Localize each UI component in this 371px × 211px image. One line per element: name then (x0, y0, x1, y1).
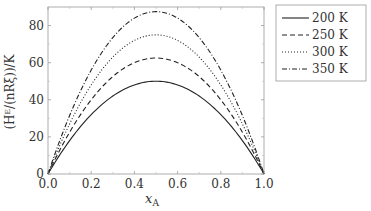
legend: 200 K250 K300 K350 K (276, 5, 366, 81)
y-tick-label: 40 (29, 93, 44, 107)
x-axis-label: xA (145, 191, 159, 208)
x-tick-label: 0.6 (168, 177, 187, 191)
x-tick-label: 0.4 (125, 177, 144, 191)
series-line (48, 35, 264, 174)
x-tick-label: 1.0 (254, 177, 273, 191)
y-axis-label: (Hᴱ/(nRξ))/K (3, 53, 17, 129)
legend-label: 300 K (312, 45, 349, 59)
x-axis-ticks: 0.00.20.40.60.81.0 (38, 7, 273, 191)
data-series (48, 12, 264, 174)
y-axis-ticks: 020406080 (29, 19, 264, 181)
y-tick-label: 0 (36, 167, 44, 181)
legend-label: 350 K (312, 62, 349, 76)
legend-label: 200 K (312, 11, 349, 25)
x-tick-label: 0.2 (82, 177, 101, 191)
series-line (48, 12, 264, 174)
x-tick-label: 0.8 (211, 177, 230, 191)
chart: 0.00.20.40.60.81.0 020406080 xA (Hᴱ/(nRξ… (0, 0, 371, 211)
y-tick-label: 20 (29, 130, 44, 144)
series-line (48, 58, 264, 174)
series-line (48, 81, 264, 174)
y-tick-label: 80 (29, 19, 44, 33)
legend-label: 250 K (312, 28, 349, 42)
y-tick-label: 60 (29, 56, 44, 70)
